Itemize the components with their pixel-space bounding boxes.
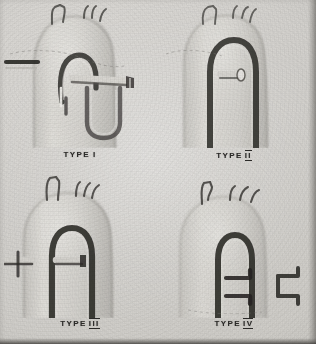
- plate-edge-top: [0, 0, 316, 4]
- plate-edge-right: [308, 0, 316, 344]
- figure-plate: TYPEI: [0, 0, 316, 344]
- halftone-dot-overlay: [0, 0, 316, 344]
- plate-edge-left: [0, 0, 5, 344]
- plate-edge-bottom: [0, 338, 316, 344]
